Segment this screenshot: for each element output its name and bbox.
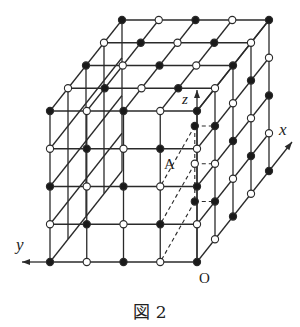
lattice-edge [233, 118, 251, 141]
lattice-node [229, 137, 236, 144]
lattice-edge [215, 141, 233, 164]
lattice-edge [178, 66, 196, 89]
lattice-edge [215, 103, 233, 126]
lattice-edge [86, 43, 104, 66]
lattice-node [211, 198, 218, 205]
lattice-node [229, 62, 236, 69]
lattice-edge [233, 194, 251, 217]
cube-lattice-diagram: x y z O A [0, 0, 300, 300]
lattice-node [157, 221, 164, 228]
lattice-edge [196, 43, 214, 66]
lattice-edge [215, 66, 233, 89]
z-axis-label: z [181, 91, 188, 107]
lattice-node [82, 62, 89, 69]
lattice-edge [215, 179, 233, 202]
origin-label: O [199, 270, 210, 286]
lattice-node [46, 145, 53, 152]
lattice-node [265, 54, 272, 61]
lattice-edge [86, 118, 104, 141]
lattice-edge [251, 20, 269, 43]
lattice-edge [50, 239, 68, 262]
lattice-node [157, 258, 164, 265]
lattice-node [83, 145, 90, 152]
y-axis-label: y [14, 235, 24, 254]
lattice-edge [160, 88, 178, 111]
lattice-edge [68, 103, 86, 126]
lattice-node [211, 85, 218, 92]
lattice-node [83, 107, 90, 114]
lattice-node [64, 85, 71, 92]
lattice-edge [124, 88, 142, 111]
lattice-node [157, 107, 164, 114]
lattice-node [120, 107, 127, 114]
lattice-edge [68, 141, 86, 164]
lattice-edge [197, 164, 215, 187]
z-axis-arrow-arrowhead-icon [194, 90, 200, 98]
point-a-label: A [164, 156, 175, 172]
lattice-edge [68, 179, 86, 202]
lattice-edge [197, 202, 215, 225]
lattice-edge [123, 43, 141, 66]
lattice-node [193, 183, 200, 190]
origin-node [193, 258, 200, 265]
lattice-edge [50, 126, 68, 149]
lattice-node [229, 16, 236, 23]
lattice-edge [233, 156, 251, 179]
figure-caption: 図 2 [0, 298, 300, 323]
lattice-node [120, 183, 127, 190]
lattice-edge [104, 171, 122, 194]
lattice-node [46, 221, 53, 228]
lattice-node [211, 236, 218, 243]
x-axis-label: x [278, 120, 287, 139]
lattice-node [157, 145, 164, 152]
lattice-edge [233, 81, 251, 104]
lattice-node [100, 39, 107, 46]
lattice-node [247, 39, 254, 46]
lattice-edge [215, 217, 233, 240]
lattice-edge [142, 66, 160, 89]
lattice-edge [86, 194, 104, 217]
lattice-node [46, 107, 53, 114]
lattice-node [175, 85, 182, 92]
lattice-edge [197, 126, 215, 149]
lattice-node [120, 221, 127, 228]
lattice-edge [251, 133, 269, 156]
lattice-node [229, 175, 236, 182]
lattice-node [119, 62, 126, 69]
lattice-node [229, 100, 236, 107]
lattice-node [229, 213, 236, 220]
lattice-edge [86, 156, 104, 179]
lattice-edge [50, 202, 68, 225]
lattice-node [211, 160, 218, 167]
lattice-edge [251, 171, 269, 194]
lattice-node [193, 221, 200, 228]
lattice-edge [68, 217, 86, 240]
lattice-edge [104, 133, 122, 156]
hidden-node [191, 198, 198, 205]
lattice-node [192, 16, 199, 23]
lattice-edge [251, 58, 269, 81]
lattice-nodes [46, 16, 272, 265]
lattice-node [138, 85, 145, 92]
lattice-node [265, 130, 272, 137]
lattice-edge [160, 43, 178, 66]
lattice-node [118, 16, 125, 23]
lattice-edge [197, 88, 215, 111]
lattice-node [265, 16, 272, 23]
lattice-edge [197, 239, 215, 262]
lattice-node [83, 183, 90, 190]
y-axis-arrow-arrowhead-icon [22, 259, 30, 265]
lattice-edge [104, 20, 122, 43]
lattice-node [83, 258, 90, 265]
lattice-edge [178, 20, 196, 43]
lattice-node [247, 77, 254, 84]
lattice-node [46, 183, 53, 190]
hidden-node [191, 160, 198, 167]
lattice-node [137, 39, 144, 46]
hidden-dashed-lines [160, 126, 215, 262]
lattice-node [193, 145, 200, 152]
lattice-node [211, 39, 218, 46]
lattice-node [211, 122, 218, 129]
lattice-node [83, 221, 90, 228]
lattice-node [265, 92, 272, 99]
